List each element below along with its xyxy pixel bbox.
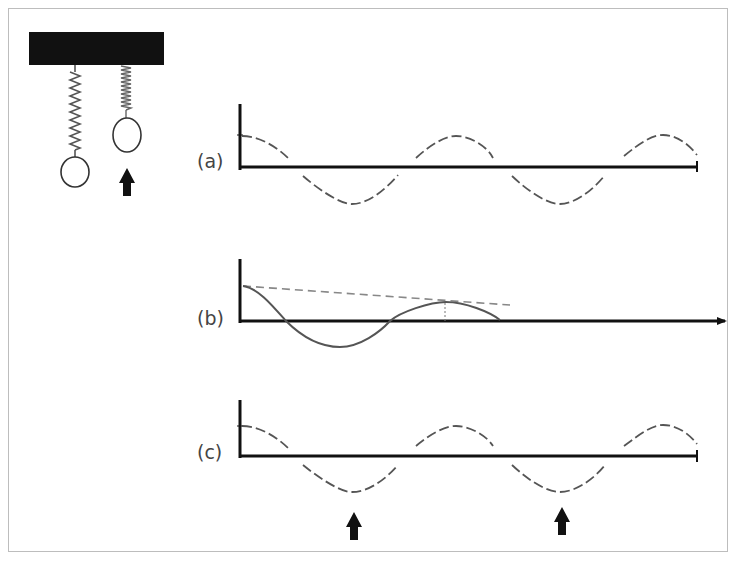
mass-bob-left — [61, 157, 89, 187]
panel-a-label: (a) — [197, 150, 223, 172]
wave-b — [243, 286, 500, 347]
push-arrow-icon — [346, 512, 362, 540]
extended-spring-icon — [70, 65, 80, 157]
compressed-spring-icon — [121, 66, 131, 118]
up-arrow-icon — [119, 168, 135, 196]
panel-b — [240, 259, 727, 347]
panel-b-label: (b) — [197, 307, 224, 329]
panel-a — [237, 104, 697, 204]
ceiling-support — [29, 32, 164, 65]
wave-a — [242, 136, 288, 158]
panel-c-label: (c) — [197, 441, 222, 463]
panel-c — [237, 400, 697, 540]
wave-c — [242, 426, 288, 448]
envelope-line — [243, 286, 510, 305]
push-arrow-icon — [554, 507, 570, 535]
diagram-canvas — [0, 0, 738, 565]
mass-bob-right — [113, 118, 141, 152]
